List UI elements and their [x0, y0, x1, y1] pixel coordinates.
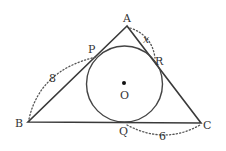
- label-o: O: [120, 89, 129, 102]
- label-r: R: [155, 55, 164, 68]
- center-dot: [122, 81, 126, 85]
- label-c: C: [203, 119, 211, 132]
- measure-qc: 6: [159, 130, 166, 143]
- measure-bp: 8: [49, 72, 56, 85]
- measure-ar: x: [143, 33, 150, 46]
- geometry-diagram: A B C P Q R O 8 6 x: [0, 0, 226, 151]
- diagram-svg: A B C P Q R O 8 6 x: [0, 0, 226, 151]
- label-b: B: [15, 117, 23, 130]
- label-a: A: [122, 12, 132, 25]
- label-q: Q: [119, 125, 128, 138]
- label-p: P: [88, 43, 96, 56]
